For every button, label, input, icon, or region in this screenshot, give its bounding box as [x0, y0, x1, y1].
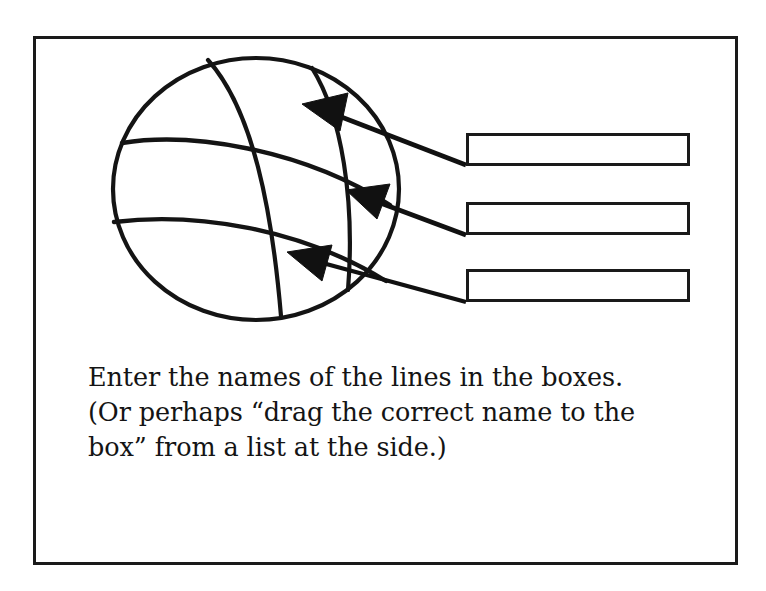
caption-line-1: Enter the names of the lines in the boxe… [88, 360, 688, 395]
figure-caption: Enter the names of the lines in the boxe… [88, 360, 688, 465]
answer-box-1[interactable] [466, 133, 690, 166]
answer-box-3-text[interactable] [469, 272, 687, 299]
answer-box-1-text[interactable] [469, 136, 687, 163]
answer-box-2[interactable] [466, 202, 690, 235]
answer-box-2-text[interactable] [469, 205, 687, 232]
answer-box-3[interactable] [466, 269, 690, 302]
caption-line-2: (Or perhaps “drag the correct name to th… [88, 395, 688, 430]
caption-line-3: box” from a list at the side.) [88, 430, 688, 465]
figure-root: Enter the names of the lines in the boxe… [0, 0, 766, 591]
